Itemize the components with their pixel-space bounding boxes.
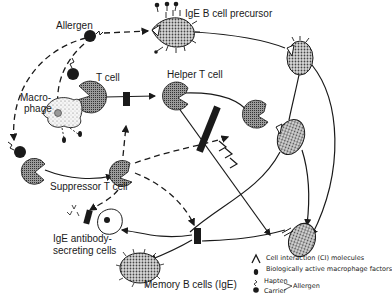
label-ige-b-precursor: IgE B cell precursor	[185, 8, 272, 19]
line-middle-b-down	[190, 152, 280, 232]
label-macrophage-2: phage	[24, 103, 52, 114]
block-bar-top	[123, 92, 130, 106]
allergen-suppressor-icon	[14, 146, 26, 158]
arrow-bar-to-memory	[150, 240, 192, 260]
legend-hapten-label: Hapten	[264, 277, 288, 285]
suppressor-t-cell-left	[21, 158, 45, 184]
arrow-middle-to-bottom	[302, 150, 309, 225]
label-suppressor-t-cell: Suppressor T cell	[50, 181, 127, 192]
allergen-carrier-icon	[84, 30, 96, 42]
arrow-allergen-to-precursor	[104, 31, 148, 33]
label-macrophage-1: Macro-	[20, 92, 51, 103]
legend-allergen-label: Allergen	[293, 282, 320, 290]
legend-hapten-icon	[254, 280, 257, 286]
label-ige-secreting-1: IgE antibody-	[53, 233, 112, 244]
ige-secreting-cell	[67, 205, 122, 234]
arrow-suppressor-to-lower-bar	[135, 173, 194, 225]
chevron-markers	[219, 141, 237, 168]
label-helper-t-cell: Helper T cell	[167, 69, 223, 80]
label-t-cell: T cell	[96, 72, 120, 83]
line-precursor-to-bcell	[195, 32, 285, 48]
arrow-bar-to-secreting	[122, 230, 192, 237]
label-allergen: Allergen	[56, 20, 93, 31]
arrow-left-to-suppressor	[45, 170, 112, 178]
b-cell-top-right	[287, 36, 313, 75]
arrow-top-b-to-bottom-b	[312, 65, 335, 235]
block-bar-lower	[194, 228, 201, 244]
line-top-b-to-middle-b	[289, 70, 300, 120]
arrow-suppressor-to-secreting	[90, 190, 118, 210]
b-cell-middle	[273, 116, 310, 159]
block-bar-secreting	[83, 209, 92, 224]
legend-ci-label: Cell interaction (CI) molecules	[266, 254, 364, 262]
legend-carrier-icon	[253, 287, 259, 293]
block-bar-helper	[196, 106, 220, 153]
helper-t-cell	[163, 82, 188, 110]
label-memory-b: Memory B cells (IgE)	[144, 279, 237, 290]
helper-t-cell-right	[242, 100, 268, 128]
legend-factor-icon	[254, 269, 258, 275]
label-ige-secreting-2: secreting cells	[53, 245, 116, 256]
allergen-hapten-icon	[96, 31, 103, 35]
arrow-suppressor-to-bar	[122, 126, 126, 166]
allergen-tcell-icon	[67, 68, 79, 80]
legend-carrier-label: Carrier	[264, 287, 286, 295]
legend-ci-icon	[252, 255, 260, 263]
line-bottom-b-to-bar	[202, 230, 285, 241]
legend-factors-label: Biologically active macrophage factors	[266, 265, 392, 273]
arrow-suppressor-right	[135, 137, 228, 163]
